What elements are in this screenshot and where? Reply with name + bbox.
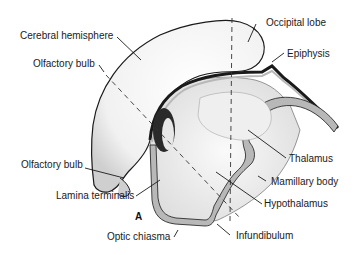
label-lamina-terminalis: Lamina terminalis bbox=[56, 190, 134, 202]
label-thalamus: Thalamus bbox=[289, 153, 333, 165]
label-occipital-lobe: Occipital lobe bbox=[266, 17, 326, 29]
label-olfactory-bulb-top: Olfactory bulb bbox=[33, 58, 95, 70]
label-infundibulum: Infundibulum bbox=[236, 230, 293, 242]
label-cerebral-hemisphere: Cerebral hemisphere bbox=[20, 30, 113, 42]
label-optic-chiasma: Optic chiasma bbox=[107, 231, 170, 243]
label-olfactory-bulb-bottom: Olfactory bulb bbox=[21, 159, 83, 171]
label-epiphysis: Epiphysis bbox=[287, 48, 330, 60]
panel-letter: A bbox=[135, 211, 142, 222]
label-hypothalamus: Hypothalamus bbox=[264, 198, 328, 210]
brain-diagram: Cerebral hemisphere Olfactory bulb Olfac… bbox=[0, 0, 356, 255]
label-mamillary-body: Mamillary body bbox=[271, 176, 338, 188]
